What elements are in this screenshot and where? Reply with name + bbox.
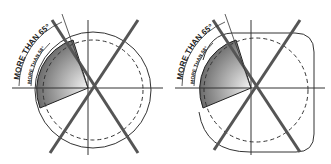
left-diagram: MORE THAN 65° MORE THAN 58° [12,14,163,155]
right-diagram: MORE THAN 65° MORE THAN 58° [175,14,325,155]
diagram-canvas: MORE THAN 65° MORE THAN 58° MORE THAN 65… [0,0,331,164]
